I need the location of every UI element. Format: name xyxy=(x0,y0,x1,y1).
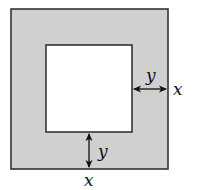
bottom-side-label: x xyxy=(84,170,94,190)
square-frame-diagram: y x y x xyxy=(0,0,198,190)
right-gap-label: y xyxy=(145,65,156,85)
bottom-gap-label: y xyxy=(97,141,108,161)
right-side-label: x xyxy=(173,79,183,99)
inner-square xyxy=(46,45,132,132)
